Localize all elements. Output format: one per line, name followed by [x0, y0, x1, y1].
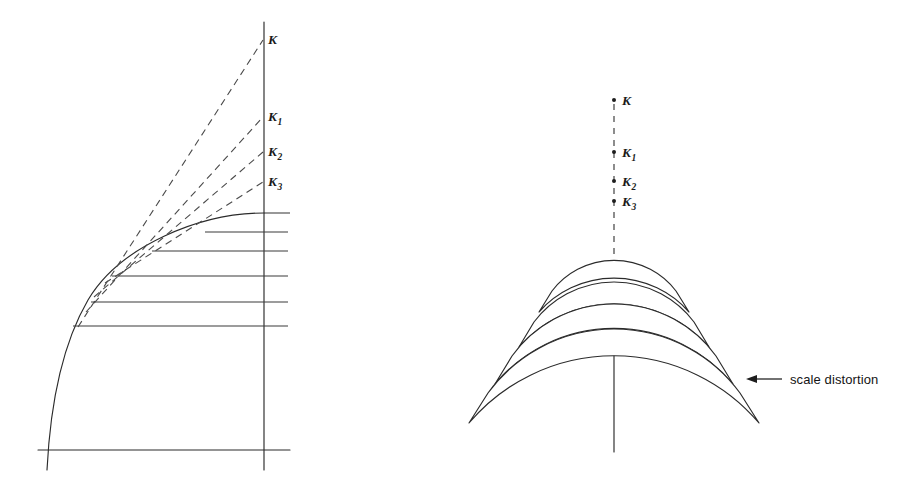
- diagram-canvas: K K1 K2 K3 K: [0, 0, 921, 497]
- left-apex-label-K3: K3: [267, 174, 283, 192]
- right-apex-dot-K: [612, 98, 616, 102]
- right-panel-group: K K1 K2 K3 scale distortion: [469, 93, 878, 452]
- right-apex-dot-K2: [612, 179, 616, 183]
- right-apex-dot-K3: [612, 199, 616, 203]
- right-apex-dot-K1: [612, 150, 616, 154]
- figure-root: K K1 K2 K3 K: [0, 0, 921, 497]
- cone-line-K: [78, 40, 263, 327]
- right-apex-label-K: K: [621, 93, 632, 108]
- right-apex-label-K2: K2: [621, 174, 637, 192]
- scale-distortion-label: scale distortion: [790, 372, 878, 387]
- right-apex-label-K1: K1: [621, 145, 636, 163]
- left-apex-label-K: K: [267, 32, 278, 47]
- scale-distortion-arrow-icon: [746, 375, 757, 383]
- left-apex-label-K1: K1: [267, 109, 282, 127]
- left-panel-group: K K1 K2 K3: [38, 22, 290, 470]
- meridian-arc: [47, 213, 264, 470]
- left-apex-label-K2: K2: [267, 144, 283, 162]
- right-apex-label-K3: K3: [621, 194, 637, 212]
